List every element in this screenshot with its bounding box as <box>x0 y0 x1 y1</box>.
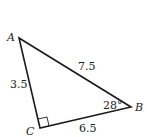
triangle-diagram: A B C 7.5 3.5 6.5 28° <box>0 0 147 137</box>
vertex-label-c: C <box>26 125 35 137</box>
angle-label-b: 28° <box>103 99 123 112</box>
vertex-label-b: B <box>134 101 143 114</box>
side-label-ab: 7.5 <box>78 60 96 73</box>
side-label-bc: 6.5 <box>79 122 97 135</box>
vertex-label-a: A <box>6 31 15 44</box>
side-label-ac: 3.5 <box>10 78 28 91</box>
triangle-abc <box>19 38 131 128</box>
